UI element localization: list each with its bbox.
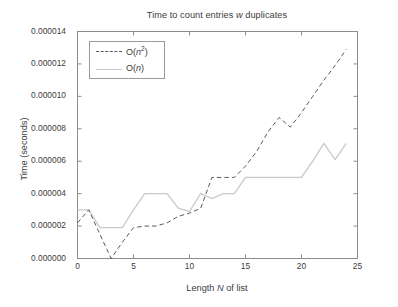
chart-legend: O(n2) O(n) <box>89 41 165 79</box>
plot-canvas <box>0 0 398 307</box>
legend-label-quadratic: O(n2) <box>126 45 148 57</box>
legend-entry-linear: O(n) <box>90 60 166 79</box>
chart-figure: Time to count entries w duplicates Time … <box>0 0 398 307</box>
series-line-linear <box>78 143 347 227</box>
legend-line-sample-quadratic <box>96 51 122 52</box>
legend-line-sample-linear <box>96 69 122 70</box>
legend-label-linear: O(n) <box>126 63 144 73</box>
legend-entry-quadratic: O(n2) <box>90 42 166 61</box>
x-axis-label: Length N of list <box>77 283 357 293</box>
